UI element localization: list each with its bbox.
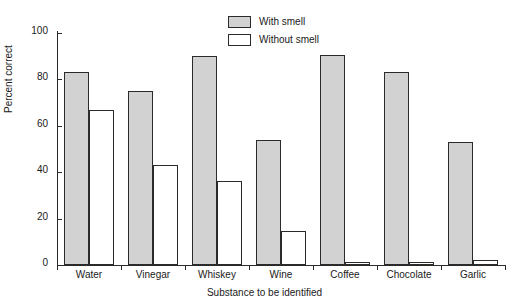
bar-chocolate-with-smell xyxy=(384,72,409,265)
bar-vinegar-without-smell xyxy=(153,165,178,265)
bar-water-with-smell xyxy=(64,72,89,265)
category-label-vinegar: Vinegar xyxy=(121,269,185,280)
bar-coffee-without-smell xyxy=(345,262,370,265)
legend-item-without-smell: Without smell xyxy=(228,32,319,47)
bar-water-without-smell xyxy=(89,110,114,265)
category-label-garlic: Garlic xyxy=(441,269,505,280)
bar-wine-without-smell xyxy=(281,231,306,265)
y-axis-label: Percent correct xyxy=(4,45,14,113)
y-tick-label: 20 xyxy=(37,212,48,222)
category-label-coffee: Coffee xyxy=(313,269,377,280)
bar-garlic-with-smell xyxy=(448,142,473,265)
bar-vinegar-with-smell xyxy=(128,91,153,265)
y-tick-label: 100 xyxy=(31,26,48,36)
legend: With smell Without smell xyxy=(228,14,319,50)
bar-garlic-without-smell xyxy=(473,260,498,265)
bar-chocolate-without-smell xyxy=(409,262,434,265)
y-tick-label: 0 xyxy=(42,258,48,268)
bar-whiskey-with-smell xyxy=(192,56,217,265)
category-label-chocolate: Chocolate xyxy=(377,269,441,280)
x-tick-mark xyxy=(505,265,506,270)
legend-item-with-smell: With smell xyxy=(228,14,319,29)
y-tick-label: 80 xyxy=(37,72,48,82)
bar-coffee-with-smell xyxy=(320,55,345,265)
plot-area xyxy=(57,33,505,265)
bar-chart: 020406080100 Percent correct Substance t… xyxy=(0,0,529,307)
category-label-whiskey: Whiskey xyxy=(185,269,249,280)
legend-swatch-with-smell-icon xyxy=(228,16,251,28)
legend-label-without-smell: Without smell xyxy=(259,35,319,45)
x-axis-label: Substance to be identified xyxy=(0,288,529,298)
category-label-wine: Wine xyxy=(249,269,313,280)
category-label-water: Water xyxy=(57,269,121,280)
y-tick-label: 40 xyxy=(37,165,48,175)
y-tick-label: 60 xyxy=(37,119,48,129)
x-axis-line xyxy=(57,265,505,266)
bar-whiskey-without-smell xyxy=(217,181,242,265)
bar-wine-with-smell xyxy=(256,140,281,265)
legend-swatch-without-smell-icon xyxy=(228,34,251,46)
legend-label-with-smell: With smell xyxy=(259,17,305,27)
